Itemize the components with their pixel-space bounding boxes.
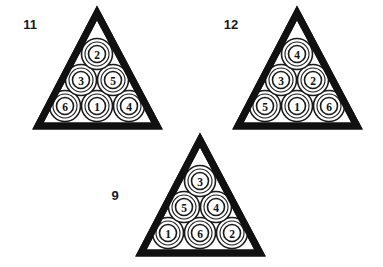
ball-row-bottom-row: 162	[153, 218, 248, 249]
ball-row-bottom-row: 516	[250, 91, 345, 122]
ball-2[interactable]: 2	[82, 39, 113, 70]
ball-number-label: 1	[94, 101, 100, 113]
ball-row-top-row: 4	[282, 39, 313, 70]
rack-12: 51632412	[224, 13, 357, 126]
ball-number-label: 6	[197, 228, 203, 240]
ball-number-label: 2	[229, 228, 235, 240]
rack-11: 61435211	[23, 13, 157, 126]
ball-number-label: 4	[294, 49, 300, 61]
ball-number-label: 5	[110, 75, 116, 87]
figure-canvas: 61435211516324121625439	[0, 0, 383, 267]
ball-number-label: 3	[78, 75, 84, 87]
ball-row-top-row: 3	[185, 166, 216, 197]
rack-label-12: 12	[224, 17, 238, 32]
ball-row-bottom-row: 614	[50, 91, 145, 122]
ball-number-label: 5	[262, 101, 268, 113]
rack-label-9: 9	[111, 188, 118, 203]
ball-number-label: 6	[62, 101, 68, 113]
ball-number-label: 5	[181, 202, 187, 214]
ball-number-label: 2	[310, 75, 316, 87]
ball-number-label: 3	[197, 176, 203, 188]
ball-number-label: 4	[213, 202, 219, 214]
ball-4[interactable]: 4	[282, 39, 313, 70]
ball-number-label: 6	[326, 101, 332, 113]
ball-3[interactable]: 3	[185, 166, 216, 197]
rack-label-11: 11	[23, 17, 37, 32]
billiard-racks-figure: 61435211516324121625439	[0, 0, 383, 267]
ball-number-label: 3	[278, 75, 284, 87]
ball-number-label: 1	[165, 228, 171, 240]
ball-number-label: 1	[294, 101, 300, 113]
ball-row-top-row: 2	[82, 39, 113, 70]
rack-9: 1625439	[111, 140, 260, 253]
racks-layer: 61435211516324121625439	[23, 13, 357, 253]
ball-number-label: 2	[94, 49, 100, 61]
ball-number-label: 4	[126, 101, 132, 113]
